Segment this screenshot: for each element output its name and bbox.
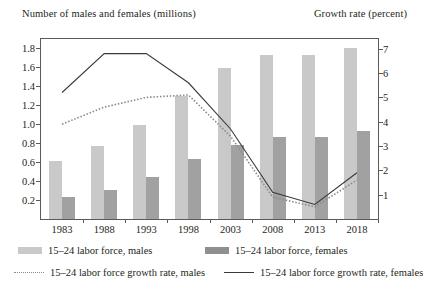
y-tick-mark-right (379, 146, 383, 147)
line-females (62, 54, 357, 205)
y-tick-label-right: 7 (383, 43, 403, 54)
y-tick-label-right: 2 (383, 165, 403, 176)
y-tick-label-left: 0.2 (5, 195, 35, 206)
y-tick-label-left: 0.8 (5, 138, 35, 149)
legend-item[interactable]: 15–24 labor force, females (205, 245, 348, 256)
y-tick-label-right: 4 (383, 116, 403, 127)
legend-swatch-bar (205, 247, 229, 254)
x-tick-label: 2018 (327, 224, 387, 235)
y-axis-title-right: Growth rate (percent) (314, 8, 407, 19)
y-tick-mark-right (379, 97, 383, 98)
y-tick-label-left: 1.6 (5, 62, 35, 73)
y-tick-label-left: 1.2 (5, 100, 35, 111)
legend-label: 15–24 labor force growth rate, males (50, 267, 205, 278)
y-tick-label-left: 0.6 (5, 157, 35, 168)
y-tick-mark-right (379, 195, 383, 196)
legend-item[interactable]: 15–24 labor force, males (18, 245, 152, 256)
legend-swatch-line (14, 269, 44, 277)
y-tick-mark-right (379, 170, 383, 171)
y-tick-label-left: 1.8 (5, 43, 35, 54)
legend-swatch-bar (18, 247, 42, 254)
legend-item[interactable]: 15–24 labor force growth rate, males (14, 267, 205, 278)
y-axis-title-left: Number of males and females (millions) (22, 8, 196, 19)
y-tick-label-right: 6 (383, 68, 403, 79)
legend-label: 15–24 labor force, females (235, 245, 348, 256)
y-tick-label-right: 5 (383, 92, 403, 103)
legend-label: 15–24 labor force growth rate, females (260, 267, 423, 278)
y-tick-label-left: 0.4 (5, 176, 35, 187)
y-tick-label-right: 3 (383, 141, 403, 152)
y-tick-label-left: 1.0 (5, 119, 35, 130)
plot-area (40, 38, 379, 220)
y-tick-label-left: 1.4 (5, 81, 35, 92)
legend-label: 15–24 labor force, males (48, 245, 152, 256)
y-tick-mark-right (379, 73, 383, 74)
legend-swatch-line (224, 269, 254, 277)
chart-legend: 15–24 labor force, males15–24 labor forc… (0, 243, 421, 290)
y-tick-label-right: 1 (383, 189, 403, 200)
line-series-group (41, 39, 378, 219)
legend-item[interactable]: 15–24 labor force growth rate, females (224, 267, 423, 278)
y-tick-mark-right (379, 122, 383, 123)
line-males (62, 95, 357, 207)
y-tick-mark-right (379, 49, 383, 50)
